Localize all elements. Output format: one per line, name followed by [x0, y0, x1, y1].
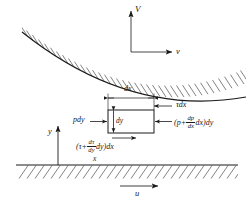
eq-shear-denominator: dy	[87, 146, 95, 154]
eq-pressure-fraction: dp dx	[186, 115, 195, 130]
figure-canvas: V v dx τdx pdy dy (p+ dp dx dx)dy (τ+ dτ…	[0, 0, 248, 208]
eq-shear-fraction: dτ dy	[87, 139, 95, 154]
equation-shear-bottom: (τ+ dτ dy dy)dx	[76, 139, 114, 154]
label-pressure-left: pdy	[73, 116, 85, 124]
label-velocity-V: V	[135, 5, 141, 14]
eq-shear-prefix: (τ+	[76, 142, 87, 151]
diagram-svg	[0, 0, 248, 208]
eq-pressure-numerator: dp	[186, 115, 195, 122]
label-velocity-v: v	[176, 47, 180, 56]
label-height-dy: dy	[116, 117, 123, 125]
label-velocity-u: u	[135, 189, 139, 198]
fluid-element-box	[108, 110, 154, 133]
eq-pressure-prefix: (p+	[174, 118, 186, 127]
label-shear-top: τdx	[176, 101, 186, 109]
equation-pressure-right: (p+ dp dx dx)dy	[174, 115, 213, 130]
eq-pressure-suffix: dx)dy	[195, 118, 213, 127]
eq-shear-suffix: dy)dx	[96, 142, 114, 151]
label-axis-y: y	[48, 127, 52, 136]
lower-wall-hatching	[18, 164, 245, 180]
eq-pressure-denominator: dx	[186, 122, 195, 130]
label-width-dx: dx	[124, 85, 132, 93]
eq-shear-numerator: dτ	[87, 139, 95, 146]
label-axis-x: x	[93, 155, 96, 163]
